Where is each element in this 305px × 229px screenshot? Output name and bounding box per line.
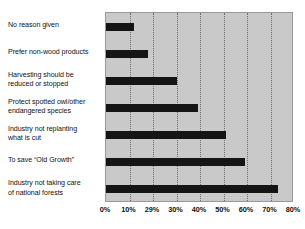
- x-tick-label: 10%: [121, 204, 136, 215]
- x-tick-label: 50%: [215, 204, 230, 215]
- bar: [106, 185, 278, 193]
- x-tick-label: 0%: [100, 204, 111, 215]
- category-axis-labels: No reason givenPrefer non-wood productsH…: [8, 12, 103, 202]
- bar: [106, 104, 198, 112]
- gridline: [271, 13, 273, 201]
- category-label: Prefer non-wood products: [8, 48, 103, 57]
- category-label: Harvesting should be reduced or stopped: [8, 71, 103, 89]
- x-tick-label: 80%: [286, 204, 301, 215]
- bar: [106, 50, 148, 58]
- x-tick-label: 29%: [145, 204, 160, 215]
- category-label: To save “Old Growth”: [8, 157, 103, 166]
- x-axis-tick-labels: 0%10%29%30%40%50%60%70%80%: [105, 204, 293, 218]
- x-tick-label: 30%: [168, 204, 183, 215]
- bar: [106, 131, 226, 139]
- plot-area: [105, 12, 293, 202]
- bar: [106, 158, 245, 166]
- bar: [106, 23, 134, 31]
- gridline: [247, 13, 249, 201]
- bar: [106, 77, 177, 85]
- category-label: Industry not replanting what is cut: [8, 125, 103, 143]
- x-tick-label: 70%: [262, 204, 277, 215]
- gridline: [224, 13, 226, 201]
- bar-chart: No reason givenPrefer non-wood productsH…: [0, 0, 305, 229]
- category-label: No reason given: [8, 21, 103, 30]
- category-label: Industry not taking care of national for…: [8, 179, 103, 197]
- gridline: [200, 13, 202, 201]
- category-label: Protect spotted owl/other endangered spe…: [8, 98, 103, 116]
- x-tick-label: 40%: [192, 204, 207, 215]
- x-tick-label: 60%: [239, 204, 254, 215]
